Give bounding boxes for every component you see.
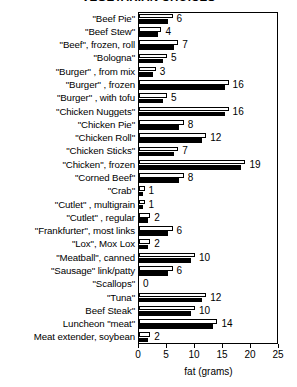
bar-white [139,173,184,178]
category-label: "Burger" , frozen [66,80,135,90]
bar-row: "Corned Beef"8 [0,171,297,184]
bar-value-label: 12 [210,293,221,303]
category-label: "Lox", Mox Lox [72,239,135,249]
bar-value-label: 3 [160,67,166,77]
bar-black [139,192,143,197]
bar-white [139,54,167,59]
bar-white [139,266,173,271]
bar-group: 1 [139,198,279,211]
category-label: "Bologna" [93,53,135,63]
category-label: "Burger" , from mix [56,67,135,77]
x-tick-label: 20 [244,349,255,360]
bar-white [139,306,195,311]
x-tick-label: 5 [163,349,169,360]
bar-value-label: 7 [182,40,188,50]
bar-group: 6 [139,264,279,277]
bar-white [139,332,150,337]
bar-black [139,231,168,236]
category-label: "Beef", frozen, roll [60,40,135,50]
bar-white [139,80,229,85]
category-label: "Frankfurter", most links [35,226,135,236]
x-axis: 0510152025 [138,344,279,364]
bar-group: 14 [139,317,279,330]
bar-row: "Chicken Pie"8 [0,118,297,131]
category-label: "Burger" , with tofu [57,93,135,103]
bar-group: 7 [139,145,279,158]
bar-group: 12 [139,291,279,304]
bar-row: "Chicken", frozen19 [0,158,297,171]
bar-value-label: 0 [143,279,149,289]
category-label: "Cutlet" , multigrain [55,200,135,210]
bar-white [139,226,173,231]
bar-group: 3 [139,65,279,78]
x-tick-label: 25 [272,349,283,360]
bar-black [139,125,179,130]
x-tick [166,344,167,348]
bar-white [139,200,145,205]
bar-row: "Bologna"5 [0,52,297,65]
bar-black [139,138,202,143]
bar-black [139,112,225,117]
bar-white [139,319,217,324]
bar-row: "Beef Pie"6 [0,12,297,25]
bar-black [139,298,202,303]
bar-black [139,32,158,37]
bar-row: "Chicken Nuggets"16 [0,105,297,118]
x-tick-label: 10 [188,349,199,360]
bar-white [139,14,173,19]
bar-black [139,45,174,50]
bar-black [139,324,213,329]
bar-group: 1 [139,185,279,198]
bar-row: "Burger" , with tofu5 [0,92,297,105]
bar-group: 16 [139,105,279,118]
bar-group: 5 [139,92,279,105]
bar-value-label: 19 [249,160,260,170]
bar-black [139,258,191,263]
bar-group: 2 [139,238,279,251]
bar-value-label: 2 [154,213,160,223]
x-tick [138,344,139,348]
bar-row: "Meatball", canned10 [0,251,297,264]
bar-group: 16 [139,78,279,91]
bar-value-label: 10 [199,306,210,316]
bar-group: 2 [139,331,279,344]
bar-black [139,152,174,157]
bar-white [139,253,195,258]
bar-white [139,213,150,218]
category-label: "Crab" [108,186,135,196]
bar-black [139,205,143,210]
bar-value-label: 10 [199,253,210,263]
bar-value-label: 8 [188,173,194,183]
bar-white [139,107,229,112]
x-axis-title: fat (grams) [138,366,279,377]
bar-row: "Beef", frozen, roll7 [0,39,297,52]
category-label: "Chicken Nuggets" [56,107,135,117]
bar-white [139,133,206,138]
bar-value-label: 6 [177,14,183,24]
bar-group: 7 [139,39,279,52]
bar-row: "Sausage" link/patty6 [0,264,297,277]
bar-white [139,40,178,45]
bar-value-label: 1 [149,200,155,210]
bar-value-label: 2 [154,332,160,342]
bar-black [139,19,168,24]
bar-row: "Lox", Mox Lox2 [0,238,297,251]
bar-row: Luncheon "meat"14 [0,317,297,330]
bar-group: 8 [139,118,279,131]
bar-value-label: 16 [233,107,244,117]
x-tick-label: 0 [135,349,141,360]
bar-row: "Chicken Roll"12 [0,132,297,145]
chart-title: VEGETARIAN CHOICES [0,0,297,3]
bar-value-label: 16 [233,80,244,90]
x-tick [222,344,223,348]
bar-row: "Crab"1 [0,185,297,198]
bar-black [139,271,168,276]
category-label: "Scallops" [93,279,136,289]
bar-value-label: 2 [154,239,160,249]
bar-black [139,99,163,104]
bar-white [139,147,178,152]
category-label: "Corned Beef" [75,173,135,183]
bar-row: "Chicken Sticks"7 [0,145,297,158]
category-label: "Sausage" link/patty [51,266,135,276]
bar-group: 10 [139,251,279,264]
